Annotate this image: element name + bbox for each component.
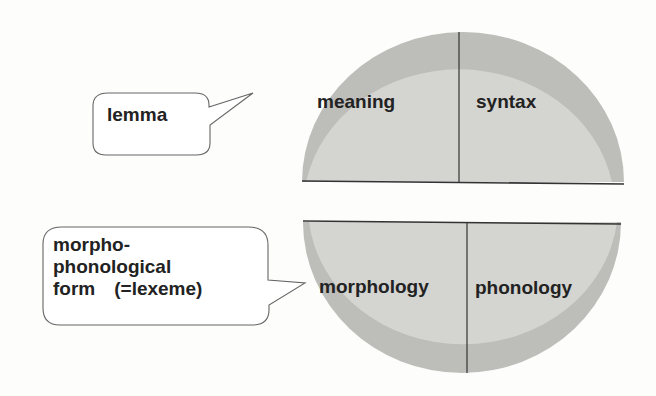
- syntax-label: syntax: [476, 91, 536, 113]
- meaning-label: meaning: [317, 91, 395, 113]
- phonology-label: phonology: [475, 277, 572, 299]
- lexicon-diagram: [0, 0, 656, 396]
- lexeme-callout-line-3: form (=lexeme): [53, 278, 202, 300]
- lexeme-callout-line-2: phonological: [53, 256, 202, 278]
- morphology-label: morphology: [319, 276, 429, 298]
- lexeme-callout-line-1: morpho-: [53, 234, 202, 256]
- lexeme-callout-text: morpho- phonological form (=lexeme): [53, 234, 202, 300]
- lemma-callout-text: lemma: [107, 104, 167, 126]
